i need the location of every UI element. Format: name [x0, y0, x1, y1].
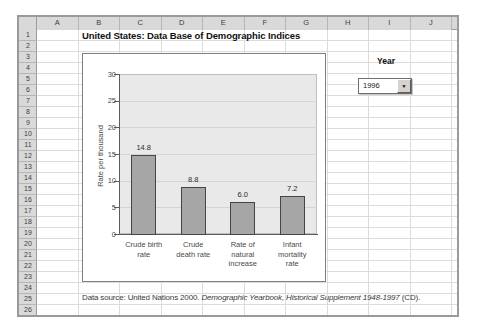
column-header-C[interactable]: C: [120, 17, 162, 30]
row-header-17[interactable]: 17: [19, 206, 37, 217]
row-headers: 1234567891011121314151617181920212223242…: [19, 30, 37, 315]
column-header-A[interactable]: A: [37, 17, 79, 30]
source-note-prefix: Data source: United Nations 2000.: [82, 293, 201, 302]
row-header-8[interactable]: 8: [19, 107, 37, 118]
column-header-J[interactable]: J: [411, 17, 453, 30]
row-header-7[interactable]: 7: [19, 96, 37, 107]
bar-3: [230, 202, 255, 235]
column-header-B[interactable]: B: [79, 17, 121, 30]
y-tick-label-30: 30: [95, 70, 116, 79]
source-note: Data source: United Nations 2000. Demogr…: [82, 293, 420, 302]
row-header-13[interactable]: 13: [19, 162, 37, 173]
column-header-E[interactable]: E: [203, 17, 245, 30]
y-tick-label-5: 5: [95, 203, 116, 212]
gridline-25: [120, 101, 317, 102]
row-header-10[interactable]: 10: [19, 129, 37, 140]
select-all-corner[interactable]: [19, 17, 37, 30]
row-header-22[interactable]: 22: [19, 261, 37, 272]
row-header-15[interactable]: 15: [19, 184, 37, 195]
category-label-4: Infant mortality rate: [269, 240, 317, 269]
column-headers: ABCDEFGHIJ: [19, 17, 457, 30]
year-dropdown-button[interactable]: ▼: [397, 79, 411, 93]
source-note-suffix: (CD).: [400, 293, 420, 302]
row-header-14[interactable]: 14: [19, 173, 37, 184]
column-header-I[interactable]: I: [369, 17, 411, 30]
category-label-2: Crude death rate: [170, 240, 218, 259]
bar-value-label-2: 8.8: [169, 175, 219, 185]
row-header-21[interactable]: 21: [19, 250, 37, 261]
row-header-25[interactable]: 25: [19, 294, 37, 305]
y-tick-label-15: 15: [95, 150, 116, 159]
category-label-3: Rate of natural increase: [219, 240, 267, 269]
column-header-G[interactable]: G: [286, 17, 328, 30]
gridline-20: [120, 127, 317, 128]
row-header-2[interactable]: 2: [19, 41, 37, 52]
column-header-H[interactable]: H: [328, 17, 370, 30]
y-tick-label-0: 0: [95, 230, 116, 239]
row-header-5[interactable]: 5: [19, 74, 37, 85]
bar-1: [131, 155, 156, 235]
source-note-citation: Demographic Yearbook, Historical Supplem…: [201, 293, 399, 302]
y-tick-label-20: 20: [95, 123, 116, 132]
year-dropdown[interactable]: 1996 ▼: [358, 78, 412, 94]
screenshot-root: ABCDEFGHIJ 12345678910111213141516171819…: [0, 0, 482, 331]
row-header-9[interactable]: 9: [19, 118, 37, 129]
year-dropdown-value: 1996: [359, 79, 397, 93]
bar-value-label-1: 14.8: [119, 143, 169, 153]
row-header-26[interactable]: 26: [19, 305, 37, 316]
bar-value-label-3: 6.0: [218, 190, 268, 200]
row-header-24[interactable]: 24: [19, 283, 37, 294]
row-header-20[interactable]: 20: [19, 239, 37, 250]
row-header-12[interactable]: 12: [19, 151, 37, 162]
y-tick-label-10: 10: [95, 176, 116, 185]
column-header-F[interactable]: F: [245, 17, 287, 30]
row-header-1[interactable]: 1: [19, 30, 37, 41]
row-header-6[interactable]: 6: [19, 85, 37, 96]
y-tick-label-25: 25: [95, 96, 116, 105]
row-header-4[interactable]: 4: [19, 63, 37, 74]
column-header-D[interactable]: D: [162, 17, 204, 30]
row-header-16[interactable]: 16: [19, 195, 37, 206]
row-header-18[interactable]: 18: [19, 217, 37, 228]
row-header-11[interactable]: 11: [19, 140, 37, 151]
category-label-1: Crude birth rate: [120, 240, 168, 259]
bar-4: [280, 196, 305, 235]
row-header-3[interactable]: 3: [19, 52, 37, 63]
row-header-19[interactable]: 19: [19, 228, 37, 239]
chart-frame[interactable]: Rate per thousand 05101520253014.8Crude …: [82, 53, 326, 282]
bar-value-label-4: 7.2: [268, 184, 318, 194]
bar-2: [181, 187, 206, 235]
page-title: United States: Data Base of Demographic …: [82, 30, 300, 41]
chevron-down-icon: ▼: [401, 84, 407, 89]
year-label: Year: [371, 56, 401, 66]
row-header-23[interactable]: 23: [19, 272, 37, 283]
